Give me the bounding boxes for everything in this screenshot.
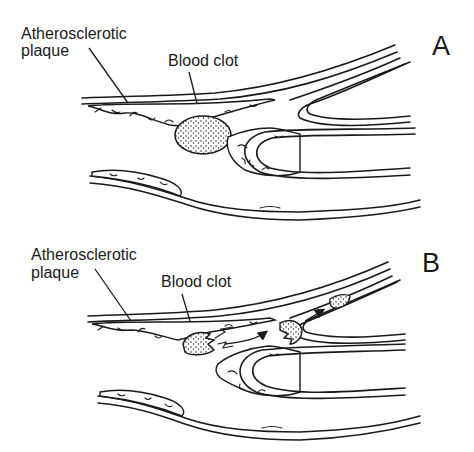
panel-b: Atherosclerotic plaque Blood clot B [0, 226, 474, 452]
blood-clot-a [175, 116, 231, 154]
embolus-fragment-2 [330, 295, 350, 309]
atherosclerotic-plaque-bifurcation [216, 346, 300, 396]
artery-diagram-b [0, 226, 474, 452]
artery-diagram-a [0, 0, 474, 226]
embolus-fragment-1 [280, 321, 302, 344]
panel-a: Atherosclerotic plaque Blood clot A [0, 0, 474, 226]
atherosclerotic-plaque-lower [92, 170, 181, 196]
plaque-leader-line [89, 48, 128, 103]
atherosclerotic-plaque-lower [100, 390, 184, 416]
flow-arrow-1 [225, 332, 266, 344]
plaque-leader-line [95, 269, 131, 321]
